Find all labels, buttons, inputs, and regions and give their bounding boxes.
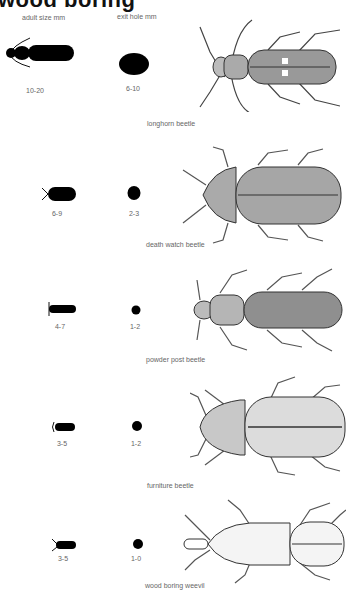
furniture-beetle-icon [190,375,346,480]
insect-name: furniture beetle [147,482,194,489]
exit-hole-icon [126,184,142,202]
exit-hole-icon [130,304,142,316]
exit-hole-value: 1-2 [116,440,156,447]
exit-hole-value: 1-2 [115,323,155,330]
adult-size-header: adult size mm [22,14,65,21]
wood-boring-weevil-icon [180,495,346,585]
death-watch-silhouette-icon [40,184,80,204]
furniture-silhouette-icon [50,420,76,434]
death-watch-beetle-icon [178,145,346,245]
adult-size-value: 6-9 [37,210,77,217]
exit-hole-icon [131,537,145,551]
adult-size-value: 3-5 [42,440,82,447]
insect-name: death watch beetle [146,241,205,248]
page-title: wood boring [0,0,135,13]
insect-name: powder post beetle [146,356,205,363]
powder-post-silhouette-icon [46,302,78,316]
insect-name: wood boring weevil [145,582,205,589]
weevil-silhouette-icon [50,538,78,552]
adult-size-value: 10-20 [15,87,55,94]
exit-hole-icon [116,52,152,76]
exit-hole-header: exit hole mm [117,13,157,20]
exit-hole-value: 1-0 [116,555,156,562]
adult-size-value: 3-5 [43,555,83,562]
longhorn-beetle-icon [190,12,340,112]
powder-post-beetle-icon [192,265,346,355]
longhorn-silhouette-icon [2,34,80,70]
exit-hole-icon [130,419,144,433]
insect-name: longhorn beetle [147,120,195,127]
exit-hole-value: 6-10 [113,85,153,92]
adult-size-value: 4-7 [40,323,80,330]
exit-hole-value: 2-3 [114,210,154,217]
